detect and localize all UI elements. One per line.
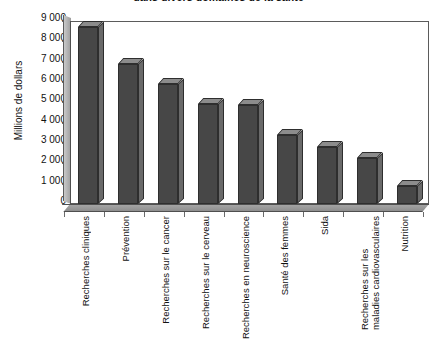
y-tick-label: 6 000: [18, 74, 66, 84]
x-axis-label: Recherches sur les maladies cardiovascul…: [359, 216, 381, 330]
bar: [78, 27, 98, 204]
bar: [397, 186, 417, 204]
x-axis-labels: Recherches cliniquesPréventionRecherches…: [0, 216, 437, 347]
y-tick-label: 5 000: [18, 94, 66, 104]
bar: [158, 84, 178, 204]
bar: [317, 147, 337, 204]
bar: [277, 135, 297, 204]
bar-front-face: [317, 147, 337, 204]
bar-front-face: [397, 186, 417, 204]
y-tick-label: 4 000: [18, 115, 66, 125]
bar-side-face: [258, 100, 264, 204]
y-tick-label: 2 000: [18, 155, 66, 165]
bar: [198, 104, 218, 204]
bar-side-face: [337, 142, 343, 204]
bar: [238, 105, 258, 204]
bar-front-face: [277, 135, 297, 204]
bar-front-face: [357, 158, 377, 204]
chart-container: dans divers domaines de la santé Million…: [0, 0, 437, 347]
bar: [118, 64, 138, 204]
x-axis-label: Santé des femmes: [279, 216, 290, 295]
bar-front-face: [198, 104, 218, 204]
bar-front-face: [238, 105, 258, 204]
y-tick-label: 3 000: [18, 135, 66, 145]
bar-side-face: [138, 58, 144, 204]
bar-series: [70, 21, 429, 204]
bar-side-face: [218, 99, 224, 204]
y-tick-label: 8 000: [18, 33, 66, 43]
x-axis-label: Recherches en neuroscience: [240, 216, 251, 339]
x-axis-label: Prévention: [120, 216, 131, 261]
y-tick-label: 0: [18, 196, 66, 206]
bar-front-face: [158, 84, 178, 204]
bar: [357, 158, 377, 204]
y-tick-label: 9 000: [18, 13, 66, 23]
y-tick-label: 1 000: [18, 176, 66, 186]
bar-side-face: [377, 153, 383, 204]
x-axis-line: [63, 204, 429, 205]
x-axis-label: Sida: [319, 216, 330, 235]
bar-side-face: [297, 129, 303, 204]
plot-floor: [63, 204, 429, 212]
y-axis-ticks: 9 0008 0007 0006 0005 0004 0003 0002 000…: [18, 18, 66, 210]
x-axis-label: Recherches sur le cancer: [160, 216, 171, 324]
x-axis-label: Recherches sur le cerveau: [200, 216, 211, 329]
bar-front-face: [78, 27, 98, 204]
bar-front-face: [118, 64, 138, 204]
x-axis-label: Nutrition: [399, 216, 410, 251]
bar-side-face: [178, 79, 184, 204]
y-tick-label: 7 000: [18, 54, 66, 64]
x-axis-label: Recherches cliniques: [80, 216, 91, 306]
chart-title: dans divers domaines de la santé: [0, 0, 437, 3]
bar-side-face: [98, 22, 104, 204]
